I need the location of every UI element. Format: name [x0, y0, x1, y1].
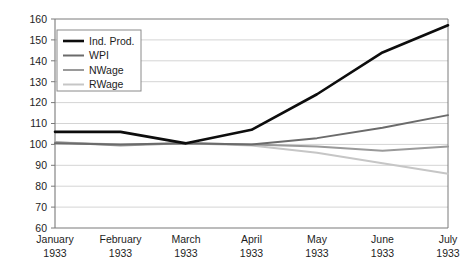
x-tick-label-month-1: February — [99, 233, 142, 245]
legend-label-ind-prod: Ind. Prod. — [89, 35, 135, 47]
x-tick-label-month-3: April — [241, 233, 262, 245]
line-chart: 60708090100110120130140150160 January193… — [0, 0, 465, 271]
y-tick-label-80: 80 — [35, 180, 47, 192]
legend-label-rwage: RWage — [89, 78, 124, 90]
x-tick-label-year-3: 1933 — [240, 247, 264, 259]
y-tick-label-60: 60 — [35, 222, 47, 234]
x-tick-label-month-4: May — [307, 233, 328, 245]
x-tick-label-year-0: 1933 — [43, 247, 67, 259]
x-tick-label-year-6: 1933 — [436, 247, 460, 259]
legend-label-nwage: NWage — [89, 64, 124, 76]
y-tick-label-160: 160 — [29, 13, 47, 25]
y-tick-label-150: 150 — [29, 34, 47, 46]
x-tick-label-year-1: 1933 — [109, 247, 133, 259]
y-tick-label-130: 130 — [29, 76, 47, 88]
x-tick-label-month-2: March — [171, 233, 200, 245]
y-tick-label-120: 120 — [29, 96, 47, 108]
chart-legend: Ind. Prod.WPINWageRWage — [57, 30, 141, 91]
y-tick-label-70: 70 — [35, 201, 47, 213]
y-tick-label-110: 110 — [30, 117, 47, 129]
x-tick-label-year-4: 1933 — [305, 247, 329, 259]
x-tick-label-year-2: 1933 — [174, 247, 198, 259]
x-tick-label-month-0: January — [36, 233, 74, 245]
y-tick-label-140: 140 — [29, 55, 47, 67]
x-tick-label-year-5: 1933 — [371, 247, 395, 259]
x-tick-label-month-6: July — [439, 233, 458, 245]
legend-label-wpi: WPI — [89, 49, 109, 61]
chart-canvas: 60708090100110120130140150160 January193… — [0, 0, 465, 271]
x-tick-label-month-5: June — [371, 233, 394, 245]
y-tick-label-100: 100 — [29, 138, 47, 150]
y-tick-label-90: 90 — [35, 159, 47, 171]
